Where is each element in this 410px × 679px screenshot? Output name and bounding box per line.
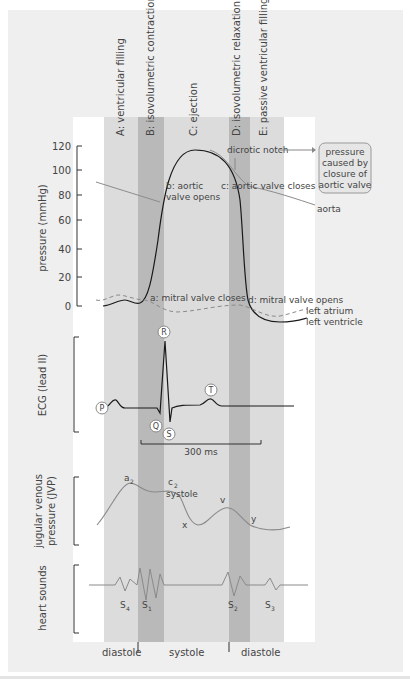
tick-80: 80 — [58, 190, 71, 201]
svg-text:closure of: closure of — [323, 169, 368, 179]
diastole-left-label: diastole — [102, 647, 141, 658]
svg-text:2: 2 — [130, 478, 134, 485]
tick-40: 40 — [58, 244, 71, 255]
tick-120: 120 — [52, 141, 71, 152]
tick-20: 20 — [58, 272, 71, 283]
band-a — [104, 117, 138, 642]
systole-label: systole — [169, 647, 204, 658]
jvp-y-label: y — [251, 514, 257, 524]
annotation-b-line1: b: aortic — [166, 181, 203, 191]
svg-text:2: 2 — [234, 605, 238, 612]
annotation-aorta: aorta — [317, 204, 341, 214]
annotation-b-line2: valve opens — [166, 192, 221, 202]
aortic-closure-callout: pressure caused by closure of aortic val… — [319, 143, 372, 193]
svg-text:3: 3 — [271, 605, 275, 612]
phase-label-d: D: isovolumetric relaxation — [231, 1, 242, 136]
jvp-axis-label-2: pressure (JVP) — [46, 476, 57, 546]
tick-60: 60 — [58, 215, 71, 226]
tick-100: 100 — [52, 165, 71, 176]
ecg-axis-label: ECG (lead II) — [37, 354, 48, 417]
tick-0: 0 — [65, 301, 71, 312]
svg-text:pressure: pressure — [326, 147, 365, 157]
svg-text:R: R — [161, 328, 167, 337]
phase-label-e: E: passive ventricular filling — [258, 0, 269, 136]
phase-label-c: C: ejection — [188, 83, 199, 136]
time-scale-label: 300 ms — [184, 447, 218, 457]
diastole-right-label: diastole — [241, 647, 280, 658]
phase-label-a: A: ventricular filling — [115, 38, 126, 136]
cycle-labels: diastole systole diastole — [102, 642, 280, 658]
jvp-systole-label: systole — [166, 489, 198, 499]
svg-text:4: 4 — [126, 605, 130, 612]
jvp-c-label: c — [168, 477, 173, 487]
cardiac-cycle-diagram: A: ventricular filling B: isovolumetric … — [0, 0, 410, 679]
svg-text:Q: Q — [153, 422, 159, 431]
heart-sounds-axis-label: heart sounds — [37, 565, 48, 630]
jvp-x-label: x — [182, 520, 188, 530]
svg-text:1: 1 — [148, 605, 152, 612]
annotation-d: d: mitral valve opens — [248, 295, 344, 305]
annotation-c: c: aortic valve closes — [221, 181, 316, 191]
annotation-left-ventricle: left ventricle — [306, 317, 363, 327]
annotation-a: a: mitral valve closes — [150, 293, 246, 303]
svg-text:T: T — [208, 386, 214, 395]
pressure-axis-label: pressure (mmHg) — [37, 184, 48, 272]
phase-label-b: B: isovolumetric contraction — [145, 0, 156, 136]
svg-text:2: 2 — [174, 482, 178, 489]
jvp-axis-label-1: jugular venous — [33, 474, 44, 549]
dicrotic-notch-label: dicrotic notch — [227, 145, 288, 155]
svg-text:S: S — [166, 430, 171, 439]
band-e — [250, 117, 284, 642]
jvp-a-label: a — [124, 473, 130, 483]
jvp-v-label: v — [220, 495, 226, 505]
svg-text:caused by: caused by — [322, 158, 369, 168]
annotation-left-atrium: left atrium — [306, 306, 353, 316]
svg-text:P: P — [100, 404, 105, 413]
band-b — [138, 117, 164, 642]
svg-text:aortic valve: aortic valve — [319, 180, 372, 190]
